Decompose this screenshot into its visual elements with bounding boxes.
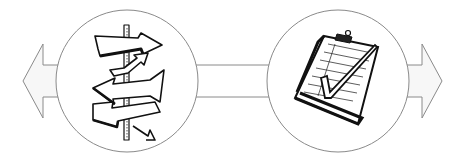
diagram-canvas bbox=[0, 0, 463, 162]
left-arrow-icon bbox=[23, 44, 60, 118]
flow-diagram bbox=[0, 0, 463, 162]
connector-band bbox=[195, 65, 270, 97]
right-arrow-icon bbox=[406, 44, 442, 118]
